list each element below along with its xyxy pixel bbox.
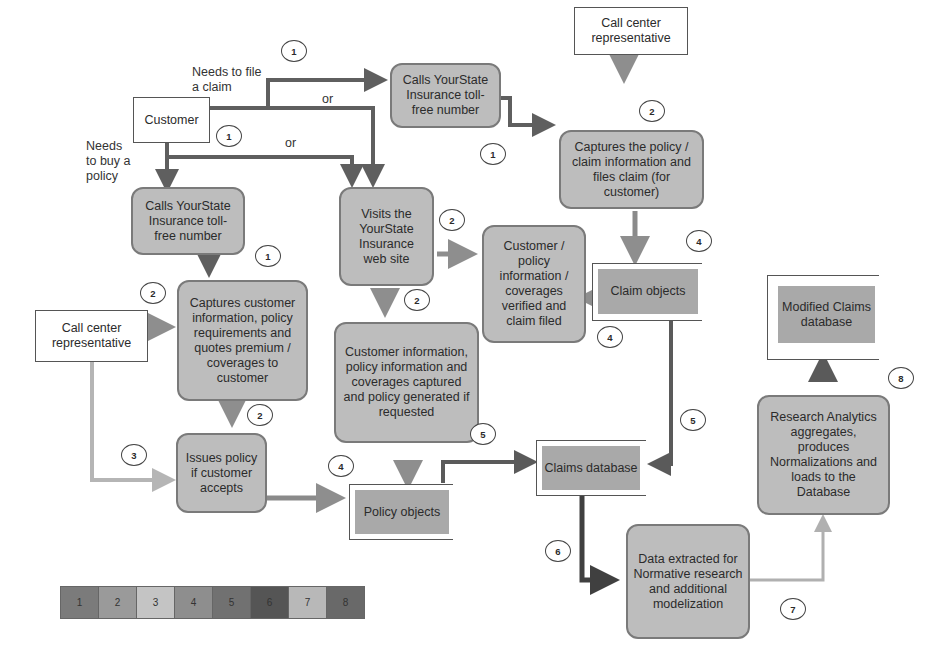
call-center-top-actor: Call center representative [574,7,688,55]
step-marker-5: 5 [680,409,706,431]
or-top-label: or [322,92,333,107]
step-marker-5: 5 [470,423,496,445]
modified-claims-label: Modified Claims database [778,286,875,343]
step-marker-4: 4 [328,455,354,477]
call-center-left-actor: Call center representative [35,310,148,362]
step-color-legend: 1 2 3 4 5 6 7 8 [60,586,365,619]
step-marker-8: 8 [888,367,914,389]
data-extracted-process: Data extracted for Normative research an… [626,524,750,639]
customer-actor: Customer [133,97,210,143]
step-marker-4: 4 [597,326,623,348]
step-marker-1: 1 [255,245,281,267]
step-marker-4: 4 [686,230,712,252]
research-analytics-process: Research Analytics aggregates, produces … [757,395,890,515]
step-marker-3: 3 [121,444,147,466]
legend-cell-4: 4 [175,587,213,618]
captures-customer-process: Captures customer information, policy re… [177,280,308,401]
legend-cell-6: 6 [251,587,289,618]
policy-objects-store: Policy objects [349,484,453,540]
step-marker-1: 1 [480,143,506,165]
step-marker-2: 2 [140,282,166,304]
claim-verified-process: Customer / policy information / coverage… [482,225,586,343]
policy-objects-label: Policy objects [355,490,449,534]
legend-cell-2: 2 [99,587,137,618]
step-marker-6: 6 [545,540,571,562]
step-marker-7: 7 [780,598,806,620]
modified-claims-store: Modified Claims database [767,275,879,360]
legend-cell-8: 8 [327,587,364,618]
visits-website-process: Visits the YourState Insurance web site [339,187,434,286]
step-marker-2: 2 [247,404,273,426]
step-marker-1: 1 [216,125,242,147]
claims-database-store: Claims database [536,440,646,496]
step-marker-1: 1 [281,40,307,62]
legend-cell-7: 7 [289,587,327,618]
calls-tollfree-policy-process: Calls YourState Insurance toll-free numb… [131,187,245,255]
step-marker-2: 2 [439,209,465,231]
calls-tollfree-claim-process: Calls YourState Insurance toll-free numb… [390,63,501,128]
claims-database-label: Claims database [542,446,640,490]
legend-cell-1: 1 [61,587,99,618]
web-captured-process: Customer information, policy information… [334,322,479,443]
claim-objects-store: Claim objects [592,263,702,321]
needs-claim-label: Needs to file a claim [192,65,262,95]
needs-policy-label: Needs to buy a policy [86,139,131,184]
or-bottom-label: or [285,136,296,151]
step-marker-2: 2 [639,100,665,122]
legend-cell-3: 3 [137,587,175,618]
claim-objects-label: Claim objects [598,269,698,314]
captures-claim-process: Captures the policy / claim information … [559,130,704,209]
step-marker-2: 2 [404,289,430,311]
issues-policy-process: Issues policy if customer accepts [176,433,267,513]
legend-cell-5: 5 [213,587,251,618]
